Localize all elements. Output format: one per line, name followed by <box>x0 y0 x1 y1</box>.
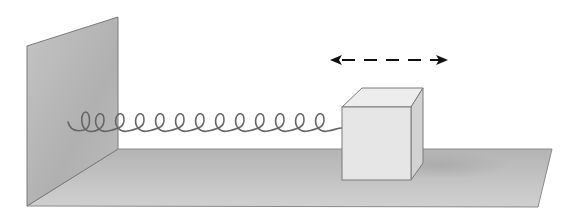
oscillation-arrow-icon <box>330 55 448 65</box>
block <box>342 88 423 180</box>
floor <box>27 149 552 207</box>
diagram-canvas: Mass-spring system on a horizontal surfa… <box>0 0 581 217</box>
